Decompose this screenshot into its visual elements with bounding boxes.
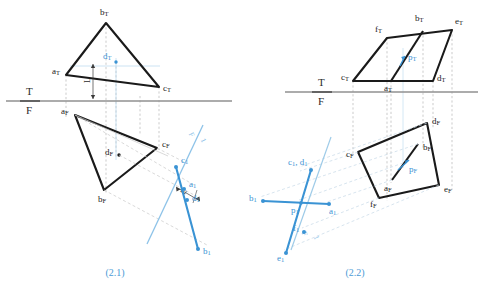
point-c1-d1-2-2: [309, 168, 313, 172]
label-a-front-2-2: aF: [384, 183, 392, 193]
edge-a-b-front-2-2: [392, 144, 418, 180]
point-b1-2-2: [261, 199, 265, 203]
label-c1-d1-2-2: c1, d1: [288, 157, 308, 167]
caption-2-1: (2.1): [105, 267, 124, 279]
panel-2-2: T F F 1: [249, 13, 478, 279]
aux-edge-line-2-1: [176, 167, 198, 249]
label-c1-2-1: c1: [181, 155, 188, 165]
point-e1-2-2: [284, 251, 288, 255]
label-a1-2-2: a1: [329, 206, 336, 216]
label-e1-2-2: e1: [277, 253, 284, 263]
point-c1: [174, 165, 178, 169]
axis-label-T-2-2: T: [318, 76, 325, 88]
point-d-top: [114, 60, 117, 63]
label-c-top-2-1: cT: [163, 83, 171, 93]
panel-2-1: L T F F 1 L: [6, 7, 232, 279]
label-c-top-2-2: cT: [341, 72, 349, 82]
label-p1-2-2: p1: [291, 205, 299, 215]
label-a1-2-1: a1: [189, 179, 196, 189]
label-a-top-2-2: aT: [384, 83, 392, 93]
label-d1-2-1: d1: [192, 193, 200, 203]
label-d-top-2-1: dT: [103, 51, 112, 61]
label-d-front-2-2: dF: [432, 116, 441, 126]
point-b1: [196, 247, 200, 251]
label-p-front-2-2: pF: [409, 164, 418, 174]
label-d-front-2-1: dF: [105, 147, 114, 157]
label-e-front-2-2: eF: [444, 184, 452, 194]
quad-front-view: [358, 123, 439, 198]
axis-label-F-2-1: F: [26, 104, 32, 116]
axis-label-F-2-2: F: [318, 95, 324, 107]
label-e-top-2-2: eT: [455, 16, 463, 26]
point-p-front-2-2: [398, 160, 409, 170]
point-p1-2-2: [299, 201, 303, 205]
geometry-drawing: L T F F 1 L: [0, 0, 482, 296]
label-c-front-2-1: cF: [162, 139, 170, 149]
caption-2-2: (2.2): [345, 267, 364, 279]
dimension-label-L-2-1: L: [83, 78, 92, 83]
point-f1-2-2: [302, 230, 306, 234]
label-c-front-2-2: cF: [346, 149, 354, 159]
label-f1-2-2: f1: [293, 223, 299, 233]
label-a-front-2-1: aF: [61, 106, 69, 116]
auxiliary-projectors-2-2: [260, 123, 439, 250]
projection-lines-2-1: [66, 23, 159, 193]
label-b1-2-1: b1: [203, 246, 211, 256]
fold-label-1-2-1: 1: [199, 137, 209, 145]
edge-a-b-top-2-2: [391, 31, 423, 81]
label-b-front-2-1: bF: [98, 194, 107, 204]
label-d-top-2-2: dT: [437, 73, 446, 83]
fold-label-1-2-2: 1: [312, 234, 322, 241]
label-b-top-2-2: bT: [415, 13, 424, 23]
triangle-top-view: [66, 23, 159, 87]
axis-label-T-2-1: T: [26, 85, 33, 97]
aux-line-b-a-2-2: [263, 201, 329, 204]
label-a-top-2-1: aT: [52, 66, 60, 76]
label-b1-2-2: b1: [249, 193, 257, 203]
label-p-top-2-2: pT: [408, 52, 417, 62]
label-f-top-2-2: fT: [375, 24, 382, 34]
drawing-sheet: L T F F 1 L: [0, 0, 482, 296]
point-d1: [185, 198, 189, 202]
fold-label-F-2-1: F: [187, 131, 197, 139]
label-f-front-2-2: fF: [370, 199, 377, 209]
label-b-top-2-1: bT: [100, 7, 109, 17]
point-a1: [182, 187, 186, 191]
